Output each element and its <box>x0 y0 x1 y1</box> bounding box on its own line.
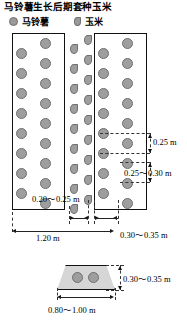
legend-item-corn: 玉米 <box>74 15 103 28</box>
corn-plant <box>84 95 92 105</box>
dim-label-potato-row-spacing: 0.25～0.30 m <box>124 166 172 178</box>
corn-plant <box>84 35 92 45</box>
potato-plant <box>122 58 133 69</box>
dim-line-base-width <box>59 297 112 298</box>
leader-line-025-bottom <box>100 153 150 154</box>
leader-line-0250030-bottom <box>120 182 150 183</box>
potato-plant <box>122 118 133 129</box>
dim-arrow-down-025 <box>148 149 152 153</box>
potato-plant <box>122 78 133 89</box>
potato-plant <box>40 38 51 49</box>
leader-line-025-top <box>100 133 150 134</box>
extension-line-strip-right <box>118 200 119 224</box>
potato-plant <box>98 168 109 179</box>
corn-plant <box>84 175 92 185</box>
potato-plant <box>16 168 27 179</box>
dim-label-ridge-to-ridge-width: 1.20 m <box>36 233 60 243</box>
potato-plant <box>122 138 133 149</box>
potato-plant <box>16 68 27 79</box>
dim-line-strip-width <box>95 218 118 219</box>
potato-plant <box>16 108 27 119</box>
leader-line-0250030-top <box>120 162 150 163</box>
corn-plant <box>70 164 78 174</box>
ridge-cross-section <box>57 265 115 290</box>
extension-line-strip-left <box>94 200 95 224</box>
dim-line-ridge-width <box>14 231 112 232</box>
dim-label-corn-in-row-spacing: 0.20～0.25 m <box>32 192 80 204</box>
dim-arrow-down-0250030 <box>148 178 152 182</box>
potato-plant <box>40 118 51 129</box>
corn-plant <box>70 204 78 214</box>
potato-plant <box>122 178 133 189</box>
potato-plant <box>98 68 109 79</box>
potato-plant <box>40 158 51 169</box>
corn-plant <box>84 155 92 165</box>
corn-plant <box>84 135 92 145</box>
extension-line-corn-left <box>69 206 70 224</box>
corn-plant <box>70 64 78 74</box>
potato-plant <box>122 38 133 49</box>
dim-arrow-up-ridge-height <box>118 266 122 270</box>
potato-plant <box>40 78 51 89</box>
potato-plant <box>16 188 27 199</box>
potato-plant <box>16 128 27 139</box>
potato-plant <box>122 98 133 109</box>
dim-label-corn-strip-width: 0.30～0.35 m <box>120 228 168 240</box>
potato-plant <box>40 178 51 189</box>
potato-plant <box>98 48 109 59</box>
dim-label-ridge-height: 0.30～0.35 m <box>123 272 171 284</box>
corn-plant <box>70 124 78 134</box>
corn-plant <box>70 104 78 114</box>
potato-plant <box>40 98 51 109</box>
legend-label-corn: 玉米 <box>85 15 103 28</box>
ridge-plant <box>72 272 83 283</box>
corn-teardrop-marker-icon <box>74 17 81 26</box>
ridge-plant <box>88 272 99 283</box>
potato-plant <box>40 138 51 149</box>
potato-plant <box>40 58 51 69</box>
extension-line-base-right <box>115 288 116 300</box>
potato-plot-right <box>94 33 147 210</box>
potato-plant <box>16 88 27 99</box>
dim-arrow-down-ridge-height <box>118 286 122 290</box>
ridge-trapezoid-shape <box>57 265 115 290</box>
corn-plant <box>84 75 92 85</box>
corn-plant <box>70 44 78 54</box>
potato-plant <box>98 88 109 99</box>
plan-view: 0.25 m 0.25～0.30 m 0.20～0.25 m 0.30～0.35… <box>0 30 187 245</box>
corn-plant <box>70 144 78 154</box>
extension-line-corn-right <box>88 200 89 224</box>
potato-plant <box>16 148 27 159</box>
corn-plant <box>84 115 92 125</box>
legend: 马铃薯 玉米 <box>8 15 183 29</box>
potato-circle-marker-icon <box>9 17 18 26</box>
cross-section-view: 0.30～0.35 m 0.80～1.00 m <box>0 262 187 326</box>
potato-plant <box>98 108 109 119</box>
figure-title: 马铃薯生长后期套种玉米 <box>4 1 112 13</box>
potato-plot-left <box>12 33 65 210</box>
corn-plant <box>84 55 92 65</box>
legend-label-potato: 马铃薯 <box>22 15 48 28</box>
dim-arrow-up-025 <box>148 134 152 138</box>
potato-plant <box>98 188 109 199</box>
dim-label-potato-in-row-spacing: 0.25 m <box>153 137 177 147</box>
potato-plant <box>16 48 27 59</box>
legend-item-potato: 马铃薯 <box>9 15 48 28</box>
dim-label-ridge-base-width: 0.80～1.00 m <box>48 303 96 315</box>
potato-plant <box>122 198 133 209</box>
corn-plant <box>70 84 78 94</box>
dim-line-corn-spacing <box>70 218 88 219</box>
figure-root: 马铃薯生长后期套种玉米 马铃薯 玉米 <box>0 0 187 326</box>
